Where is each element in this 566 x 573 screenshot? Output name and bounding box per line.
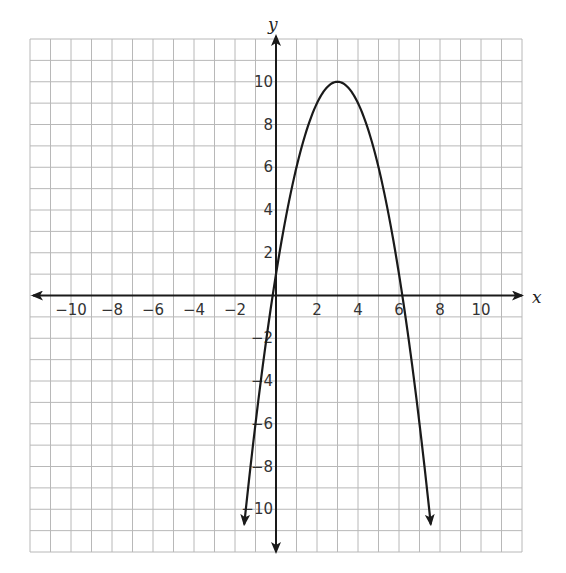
y-tick-label: −2 bbox=[251, 329, 273, 347]
y-tick-label: 6 bbox=[263, 158, 273, 176]
x-tick-label: −2 bbox=[224, 301, 246, 319]
coordinate-plane-chart: −10−8−6−4−2246810108642−2−4−6−8−10 x y bbox=[0, 0, 566, 573]
y-tick-label: 10 bbox=[254, 73, 273, 91]
y-tick-label: 8 bbox=[263, 116, 273, 134]
x-tick-label: 8 bbox=[435, 301, 445, 319]
x-tick-label: −10 bbox=[55, 301, 87, 319]
axes bbox=[33, 36, 522, 552]
x-tick-label: 4 bbox=[353, 301, 363, 319]
y-tick-label: −8 bbox=[251, 458, 273, 476]
x-axis-label: x bbox=[532, 287, 542, 307]
x-tick-label: 6 bbox=[394, 301, 404, 319]
x-tick-label: 10 bbox=[471, 301, 490, 319]
x-tick-label: −8 bbox=[101, 301, 123, 319]
x-tick-label: −4 bbox=[183, 301, 205, 319]
y-tick-label: 4 bbox=[263, 201, 273, 219]
x-tick-label: −6 bbox=[142, 301, 164, 319]
x-tick-label: 2 bbox=[312, 301, 322, 319]
y-axis-label: y bbox=[267, 14, 278, 34]
y-tick-label: 2 bbox=[263, 244, 273, 262]
